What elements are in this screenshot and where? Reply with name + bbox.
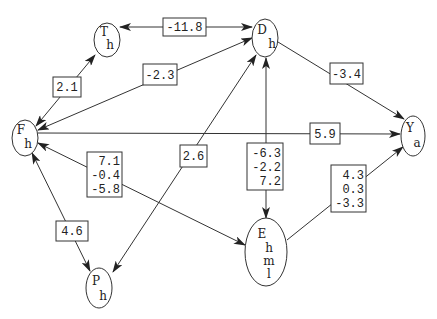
edge-weight: -2.2 <box>252 161 281 175</box>
node-p: P h <box>86 268 112 308</box>
node-label: h <box>24 137 32 151</box>
node-label: P <box>92 274 100 288</box>
edge-f-y <box>38 133 400 134</box>
edge-weight: -6.3 <box>252 147 281 161</box>
edge-weight: 4.3 <box>342 169 364 183</box>
node-label: h <box>268 37 276 51</box>
node-label: E <box>258 227 267 241</box>
edge-label-p-d: 2.6 <box>180 145 207 167</box>
edge-weight: 7.1 <box>98 155 120 169</box>
edge-weight: -0.4 <box>91 169 120 183</box>
edge-label-d-f: -2.3 <box>143 64 177 85</box>
edge-label-f-p: 4.6 <box>56 221 88 241</box>
edge-label-f-t: 2.1 <box>53 77 81 97</box>
edge-f-p <box>32 153 90 271</box>
edge-label-e-f: 7.1 -0.4 -5.8 <box>87 152 122 197</box>
node-label: h <box>99 289 107 303</box>
node-e: E h m l <box>245 218 287 286</box>
edge-label-d-e: -6.3 -2.2 7.2 <box>247 143 283 190</box>
node-d: D h <box>252 19 278 57</box>
edge-weight: -11.8 <box>166 21 202 35</box>
node-label: a <box>413 136 420 150</box>
edge-weight: -3.4 <box>332 68 361 82</box>
node-y: Y a <box>401 116 425 156</box>
node-label: T <box>100 25 108 39</box>
node-label: h <box>265 241 273 255</box>
edge-label-d-t: -11.8 <box>163 18 206 36</box>
edge-weight: 5.9 <box>314 128 336 142</box>
edge-label-e-y: 4.3 0.3 -3.3 <box>331 165 366 212</box>
node-label: h <box>106 38 114 52</box>
edge-weight: 2.6 <box>183 150 205 164</box>
node-t: T h <box>94 23 120 57</box>
node-f: F h <box>12 120 38 156</box>
edge-weight: 0.3 <box>342 183 364 197</box>
edge-weight: -5.8 <box>91 183 120 197</box>
edge-label-f-y: 5.9 <box>310 123 340 144</box>
edge-weight: 7.2 <box>259 175 281 189</box>
node-label: m <box>263 254 275 268</box>
node-label: Y <box>405 121 415 135</box>
edge-weight: 4.6 <box>61 225 83 239</box>
edge-weight: 2.1 <box>56 81 78 95</box>
edge-label-d-y: -3.4 <box>330 63 363 84</box>
node-label: D <box>257 23 267 37</box>
node-label: l <box>267 267 271 281</box>
edge-weight: -3.3 <box>335 197 364 211</box>
edge-weight: -2.3 <box>146 69 175 83</box>
path-diagram: -11.8 2.1 -2.3 -3.4 5.9 7.1 -0.4 -5.8 4.… <box>0 0 437 319</box>
node-label: F <box>17 123 25 137</box>
